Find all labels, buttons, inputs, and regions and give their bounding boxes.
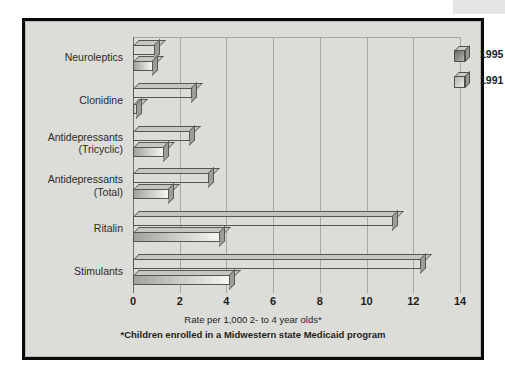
x-tick-label: 14 <box>454 295 466 307</box>
legend-label: 1995 <box>480 48 503 60</box>
category-label: Antidepressants (Total) <box>0 173 123 198</box>
bar-1991 <box>133 270 235 285</box>
bar-front-face <box>133 147 164 157</box>
x-tick-label: 2 <box>177 295 183 307</box>
bar-front-face <box>133 173 209 183</box>
category-row: Neuroleptics <box>133 37 482 80</box>
category-row: Antidepressants (Total) <box>133 165 482 208</box>
category-row: Ritalin <box>133 208 482 251</box>
cube-icon <box>454 46 468 60</box>
category-row: Antidepressants (Tricyclic) <box>133 122 482 165</box>
figure-inner-border: NeurolepticsClonidineAntidepressants (Tr… <box>25 21 481 357</box>
bar-front-face <box>133 275 230 285</box>
x-axis-ticks: 02468101214 <box>133 295 460 311</box>
plot-area: NeurolepticsClonidineAntidepressants (Tr… <box>133 37 460 293</box>
x-tick-label: 10 <box>360 295 372 307</box>
bar-1995 <box>133 254 426 269</box>
bar-1995 <box>133 211 398 226</box>
x-tick-label: 4 <box>223 295 229 307</box>
bar-1995 <box>133 83 197 98</box>
bar-1995 <box>133 168 214 183</box>
bar-front-face <box>133 45 155 55</box>
bar-1991 <box>133 184 174 199</box>
x-tick-label: 12 <box>407 295 419 307</box>
bar-front-face <box>133 104 137 114</box>
bar-1991 <box>133 99 142 114</box>
bar-front-face <box>133 232 220 242</box>
bar-1995 <box>133 126 195 141</box>
bar-1991 <box>133 142 169 157</box>
bar-front-face <box>133 189 169 199</box>
bar-1995 <box>133 40 160 55</box>
figure-frame: NeurolepticsClonidineAntidepressants (Tr… <box>22 18 484 360</box>
x-tick-label: 0 <box>130 295 136 307</box>
x-tick-label: 8 <box>317 295 323 307</box>
scan-edge-artifact <box>453 0 505 14</box>
category-label: Stimulants <box>0 265 123 278</box>
category-row: Stimulants <box>133 250 482 293</box>
category-label: Antidepressants (Tricyclic) <box>0 131 123 156</box>
x-tick-label: 6 <box>270 295 276 307</box>
bar-front-face <box>133 216 393 226</box>
bar-front-face <box>133 259 421 269</box>
category-row: Clonidine <box>133 80 482 123</box>
bar-1991 <box>133 227 225 242</box>
legend-label: 1991 <box>480 74 503 86</box>
category-label: Clonidine <box>0 94 123 107</box>
x-axis-footnote: *Children enrolled in a Midwestern state… <box>26 329 480 340</box>
bar-front-face <box>133 88 192 98</box>
bar-front-face <box>133 131 190 141</box>
category-label: Neuroleptics <box>0 51 123 64</box>
bar-front-face <box>133 61 153 71</box>
category-label: Ritalin <box>0 222 123 235</box>
x-axis-title: Rate per 1,000 2- to 4 year olds* <box>26 314 480 325</box>
cube-icon <box>454 72 468 86</box>
